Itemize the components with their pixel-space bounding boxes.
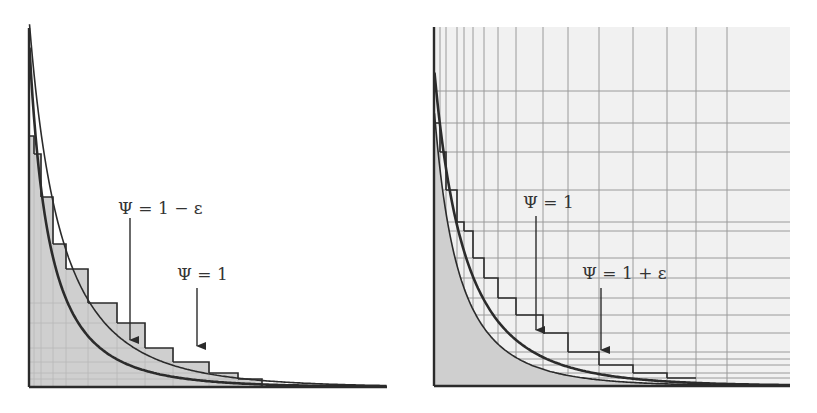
left-label-psi-1: Ψ = 1 (177, 264, 228, 284)
left-shaded-area (29, 136, 262, 387)
figure-canvas: Ψ = 1 − ε Ψ = 1 Ψ = 1 Ψ = 1 + ε (0, 0, 817, 413)
right-label-psi-1: Ψ = 1 (523, 192, 574, 212)
left-panel: Ψ = 1 − ε Ψ = 1 (29, 24, 387, 387)
right-panel: Ψ = 1 Ψ = 1 + ε (434, 27, 790, 386)
right-label-psi-1-plus-epsilon: Ψ = 1 + ε (582, 263, 667, 283)
left-label-psi-1-minus-epsilon: Ψ = 1 − ε (118, 198, 203, 218)
